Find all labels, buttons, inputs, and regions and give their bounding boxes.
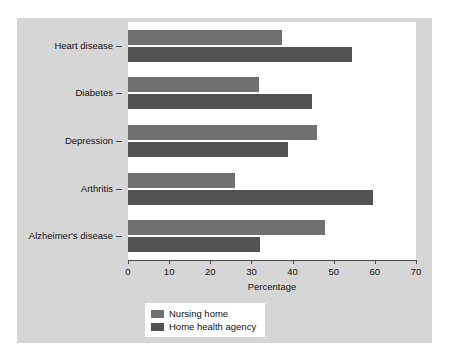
category-tick (116, 141, 122, 142)
x-axis-tick (169, 260, 170, 264)
x-axis-tick-label: 30 (246, 266, 257, 277)
x-axis-tick (128, 260, 129, 264)
bar (128, 94, 312, 109)
bar-group (128, 220, 416, 252)
x-axis-tick-label: 50 (328, 266, 339, 277)
category-label: Alzheimer's disease (29, 231, 113, 241)
legend-label: Home health agency (169, 321, 256, 332)
legend-item: Nursing home (151, 307, 256, 320)
category-axis: Heart diseaseDiabetesDepressionArthritis… (17, 22, 122, 260)
bar (128, 237, 260, 252)
x-axis-tick-label: 10 (164, 266, 175, 277)
x-axis-tick (210, 260, 211, 264)
category-tick (116, 93, 122, 94)
x-axis-tick (293, 260, 294, 264)
chart-legend: Nursing homeHome health agency (145, 303, 265, 337)
category-tick (116, 46, 122, 47)
legend-item: Home health agency (151, 320, 256, 333)
bar (128, 47, 352, 62)
bar (128, 190, 373, 205)
category-label: Diabetes (76, 88, 114, 98)
category-label: Arthritis (81, 184, 113, 194)
chart-figure: Heart diseaseDiabetesDepressionArthritis… (17, 18, 432, 343)
legend-label: Nursing home (169, 308, 228, 319)
bar (128, 142, 288, 157)
plot-area (128, 22, 416, 260)
x-axis-tick-label: 70 (411, 266, 422, 277)
legend-swatch-icon (151, 310, 164, 318)
category-tick (116, 189, 122, 190)
legend-swatch-icon (151, 323, 164, 331)
bar (128, 220, 325, 235)
bar-group (128, 77, 416, 109)
x-axis-tick-label: 40 (287, 266, 298, 277)
x-axis-tick (416, 260, 417, 264)
x-axis-tick (251, 260, 252, 264)
x-axis-tick-label: 60 (370, 266, 381, 277)
bar (128, 125, 317, 140)
bar-group (128, 125, 416, 157)
bar-group (128, 173, 416, 205)
x-axis-tick-label: 0 (125, 266, 130, 277)
x-axis-tick (334, 260, 335, 264)
bar-group (128, 30, 416, 62)
x-axis-tick (375, 260, 376, 264)
bar (128, 77, 259, 92)
category-tick (116, 236, 122, 237)
x-axis-title: Percentage (128, 281, 416, 292)
category-label: Heart disease (54, 41, 113, 51)
x-axis-line (128, 260, 416, 261)
bar (128, 173, 235, 188)
category-label: Depression (65, 136, 113, 146)
bar (128, 30, 282, 45)
x-axis-tick-label: 20 (205, 266, 216, 277)
